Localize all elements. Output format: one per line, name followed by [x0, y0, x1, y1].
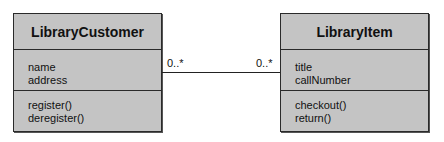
- attributes-compartment: name address: [14, 50, 161, 91]
- class-name: LibraryCustomer: [14, 14, 161, 50]
- operation: checkout(): [295, 99, 428, 112]
- attributes-compartment: title callNumber: [281, 50, 428, 91]
- operation: deregister(): [28, 112, 161, 125]
- operations-compartment: checkout() return(): [281, 91, 428, 125]
- operation: return(): [295, 112, 428, 125]
- class-library-customer[interactable]: LibraryCustomer name address register() …: [13, 13, 162, 132]
- multiplicity-left: 0..*: [167, 57, 184, 69]
- multiplicity-right: 0..*: [256, 57, 273, 69]
- association-line[interactable]: [162, 72, 280, 73]
- attribute: title: [295, 61, 428, 74]
- class-name: LibraryItem: [281, 14, 428, 50]
- attribute: name: [28, 61, 161, 74]
- attribute: address: [28, 74, 161, 87]
- attribute: callNumber: [295, 74, 428, 87]
- class-library-item[interactable]: LibraryItem title callNumber checkout() …: [280, 13, 429, 132]
- operation: register(): [28, 99, 161, 112]
- operations-compartment: register() deregister(): [14, 91, 161, 125]
